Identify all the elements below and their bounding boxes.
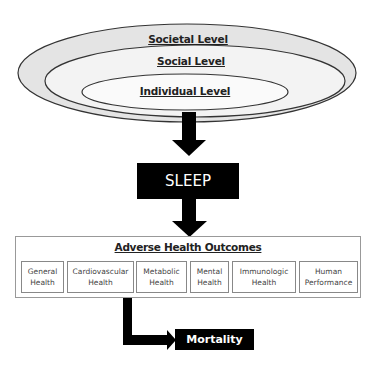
outcome-label-line1: Mental <box>197 267 222 276</box>
arrow-down-icon <box>172 198 207 237</box>
outcome-label-line1: Metabolic <box>143 267 179 276</box>
outcome-metabolic-health: MetabolicHealth <box>136 261 187 293</box>
arrow-right-icon <box>123 294 176 350</box>
outcome-label-line2: Performance <box>305 278 353 287</box>
outcome-label-line2: Health <box>197 278 222 287</box>
sleep-box: SLEEP <box>137 163 239 199</box>
outcome-label-line1: Cardiovascular <box>73 267 129 276</box>
outcome-label-line2: Health <box>252 278 277 287</box>
outcome-immunologic-health: ImmunologicHealth <box>232 261 296 293</box>
sleep-label: SLEEP <box>165 172 211 190</box>
individual-level-label: Individual Level <box>140 85 230 97</box>
societal-level-label: Societal Level <box>148 33 228 45</box>
outcome-label-line1: Human <box>315 267 342 276</box>
outcome-human-performance: HumanPerformance <box>299 261 358 293</box>
outcome-general-health: GeneralHealth <box>21 261 64 293</box>
mortality-label: Mortality <box>186 333 243 346</box>
outcome-label-line2: Health <box>30 278 55 287</box>
social-level-label: Social Level <box>157 55 225 67</box>
outcome-mental-health: MentalHealth <box>190 261 229 293</box>
outcome-label-line2: Health <box>149 278 174 287</box>
outcome-label-line1: Immunologic <box>240 267 289 276</box>
adverse-health-outcomes-box: Adverse Health Outcomes GeneralHealth Ca… <box>15 236 361 298</box>
outcome-cardiovascular-health: CardiovascularHealth <box>67 261 134 293</box>
outcomes-title: Adverse Health Outcomes <box>16 241 360 253</box>
outcome-label-line2: Health <box>88 278 113 287</box>
outcome-label-line1: General <box>28 267 58 276</box>
mortality-box: Mortality <box>175 329 254 350</box>
